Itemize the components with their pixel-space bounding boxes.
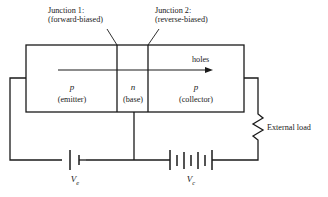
emitter-voltage-subscript: e: [76, 179, 79, 186]
junction-1-label: Junction 1: (forward-biased): [48, 6, 103, 25]
collector-lead-wire: [244, 78, 258, 110]
base-region-label: n (base): [123, 82, 143, 105]
external-load-label: External load: [267, 123, 311, 132]
emitter-lead-wire: [10, 78, 62, 160]
base-region-symbol: n: [123, 82, 143, 92]
base-region-name: (base): [123, 95, 143, 104]
junction-2-label-line1: Junction 2:: [155, 6, 191, 15]
junction-2-label-line2: (reverse-biased): [155, 15, 208, 24]
holes-label: holes: [192, 55, 209, 64]
junction-1-label-line1: Junction 1:: [48, 6, 84, 15]
collector-region-symbol: p: [179, 82, 213, 92]
circuit-schematic: [0, 0, 328, 197]
junction-2-leader-line: [148, 29, 159, 45]
junction-1-label-line2: (forward-biased): [48, 15, 103, 24]
junction-2-label: Junction 2: (reverse-biased): [155, 6, 208, 25]
emitter-voltage-label: Ve: [71, 174, 79, 186]
external-load-resistor: [253, 110, 263, 143]
emitter-region-symbol: p: [58, 82, 87, 92]
collector-voltage-subscript: c: [192, 179, 195, 186]
transistor-circuit-figure: Junction 1: (forward-biased) Junction 2:…: [0, 0, 328, 197]
emitter-region-label: p (emitter): [58, 82, 87, 105]
collector-region-label: p (collector): [179, 82, 213, 105]
emitter-region-name: (emitter): [58, 95, 87, 104]
junction-1-leader-line: [107, 29, 117, 45]
collector-battery-right-wire: [212, 143, 258, 160]
collector-region-name: (collector): [179, 95, 213, 104]
collector-voltage-label: Vc: [187, 174, 195, 186]
hole-flow-arrow-head: [205, 67, 213, 73]
